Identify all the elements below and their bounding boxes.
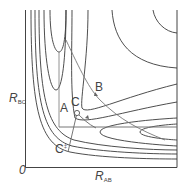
point-b-label: B (95, 81, 103, 93)
arrow-icon (85, 115, 89, 119)
origin-label: 0 (19, 164, 26, 176)
transition-state-marker (74, 110, 79, 115)
y-axis-label-main: R (9, 91, 18, 105)
y-axis-label: RBC (9, 92, 26, 105)
pes-diagram (0, 0, 189, 193)
point-c-dagger-label: C‡ (55, 143, 67, 155)
contour-lines (31, 10, 177, 159)
x-axis-label-main: R (95, 169, 104, 183)
dagger-symbol: ‡ (64, 143, 67, 149)
x-axis-label-sub: AB (104, 177, 112, 183)
point-c-label: C (71, 96, 80, 108)
x-axis-label: RAB (95, 170, 112, 183)
point-a-label: A (60, 102, 68, 114)
y-axis-label-sub: BC (18, 99, 26, 105)
c-dagger-main: C (55, 142, 64, 156)
